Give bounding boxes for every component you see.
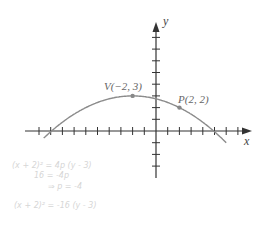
point-p	[177, 105, 181, 109]
handwritten-note-4: (x + 2)² = -16 (y - 3)	[14, 201, 97, 210]
handwritten-note-2: 16 = -4p	[34, 171, 69, 180]
handwritten-note-3: ⇒ p = -4	[48, 182, 82, 191]
vertex-label: V(−2, 3)	[104, 80, 142, 92]
parabola-diagram: y x V(−2, 3) P(2, 2) (x + 2)² = 4p (y - …	[0, 0, 266, 228]
handwritten-note-1: (x + 2)² = 4p (y - 3)	[12, 161, 92, 170]
coordinate-plane	[0, 0, 266, 228]
vertex-point	[130, 94, 134, 98]
x-axis-label: x	[244, 134, 249, 149]
y-axis-label: y	[163, 14, 168, 29]
y-axis-arrow-icon	[153, 22, 160, 32]
point-p-label: P(2, 2)	[178, 93, 209, 105]
